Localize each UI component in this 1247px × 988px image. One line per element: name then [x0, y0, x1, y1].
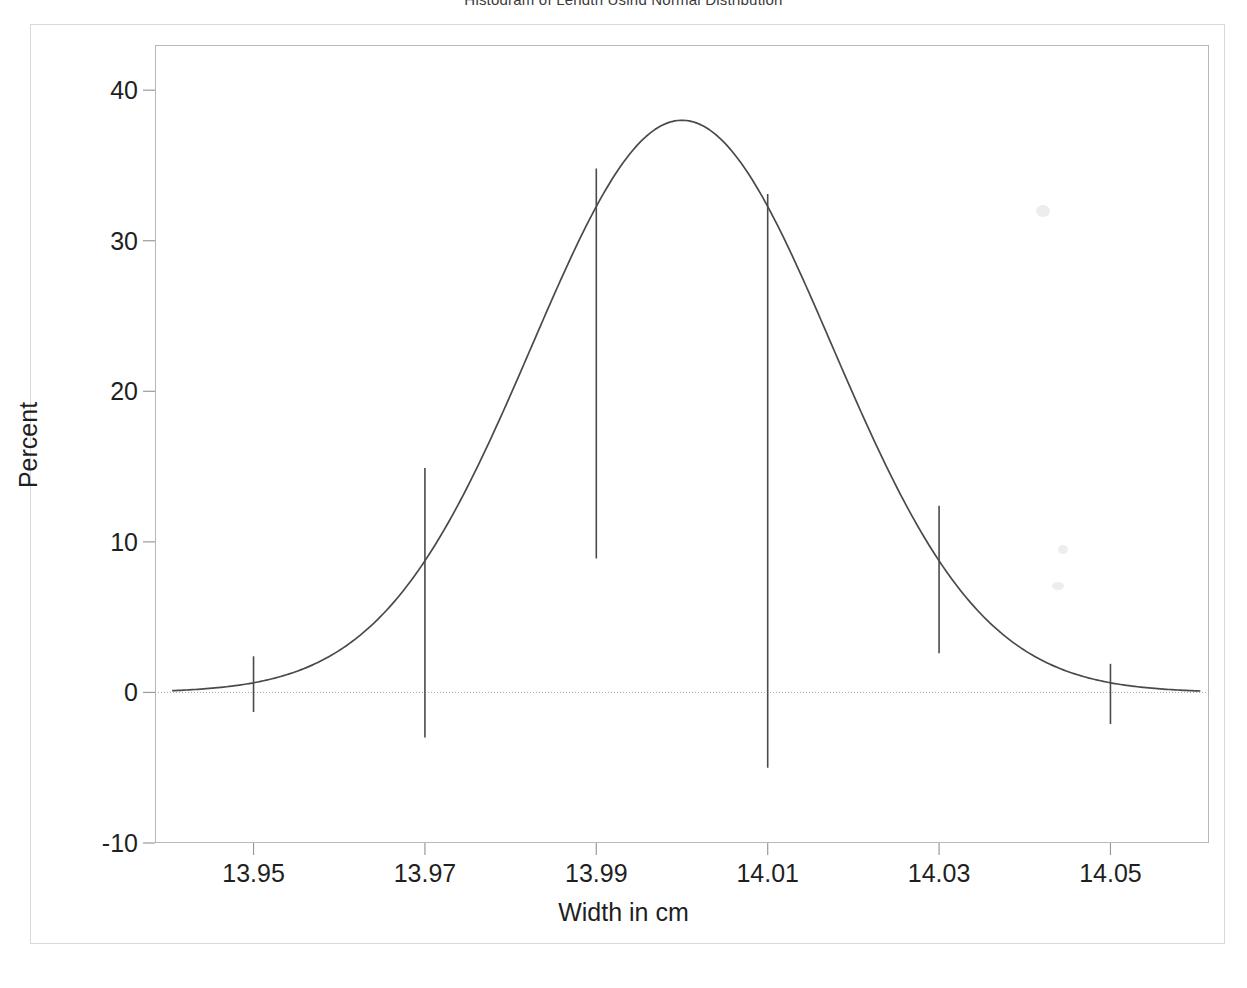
chart-figure: Histogram of Length Using Normal Distrib… — [0, 0, 1247, 988]
x-axis-tick-label: 13.99 — [565, 859, 628, 888]
x-axis-tick-label: 13.95 — [222, 859, 285, 888]
y-axis-tick-label: 40 — [60, 76, 138, 105]
y-axis-tick-label: 0 — [60, 678, 138, 707]
y-axis-title: Percent — [14, 402, 43, 488]
y-axis-tick-label: 30 — [60, 226, 138, 255]
y-axis-tick-label: -10 — [60, 829, 138, 858]
x-axis-tick-label: 13.97 — [394, 859, 457, 888]
needle-lines — [254, 168, 1111, 767]
y-axis-tick-label: 10 — [60, 527, 138, 556]
axis-ticks — [143, 90, 1110, 855]
chart-canvas — [0, 0, 1247, 988]
x-axis-tick-label: 14.01 — [736, 859, 799, 888]
density-curve-path — [172, 120, 1200, 691]
x-axis-tick-label: 14.05 — [1079, 859, 1142, 888]
x-axis-tick-label: 14.03 — [908, 859, 971, 888]
x-axis-title: Width in cm — [0, 898, 1247, 927]
normal-density-curve — [172, 120, 1200, 691]
y-axis-tick-label: 20 — [60, 377, 138, 406]
